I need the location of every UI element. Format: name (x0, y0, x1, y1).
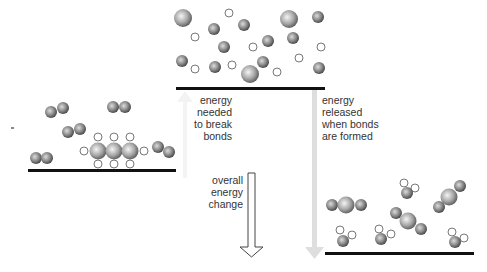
form-bonds-line-2: released (322, 106, 402, 118)
break-bonds-line-1: energy (172, 94, 232, 106)
break-bonds-label: energy needed to break bonds (172, 94, 232, 142)
break-bonds-line-3: to break (172, 118, 232, 130)
overall-line-1: overall (193, 174, 243, 186)
carbon-dioxide-molecule (390, 207, 427, 235)
break-bonds-line-4: bonds (172, 130, 232, 142)
overall-energy-label: overall energy change (193, 174, 243, 210)
oxygen-molecule (107, 101, 131, 113)
oxygen-molecule (30, 152, 53, 164)
water-molecule (336, 226, 356, 247)
carbon-dioxide-molecule (433, 180, 466, 213)
overall-line-2: energy (193, 186, 243, 198)
oxygen-molecule (62, 123, 86, 138)
products-level-line (325, 252, 474, 255)
water-molecule (400, 179, 419, 199)
water-molecule (375, 225, 395, 245)
oxygen-molecule (152, 141, 175, 158)
form-bonds-line-1: energy (322, 94, 402, 106)
stray-mark (11, 127, 14, 129)
atoms-level-line (176, 87, 325, 90)
oxygen-molecule (45, 102, 69, 118)
water-molecule (448, 228, 468, 248)
overall-line-3: change (193, 198, 243, 210)
form-bonds-label: energy released when bonds are formed (322, 94, 402, 142)
break-bonds-line-2: needed (172, 106, 232, 118)
overall-energy-arrow (240, 173, 263, 257)
reactants-level-line (28, 169, 176, 172)
energy-level-diagram (0, 0, 487, 272)
form-bonds-line-3: when bonds (322, 118, 402, 130)
separated-atoms (174, 9, 325, 83)
carbon-dioxide-molecule (326, 197, 367, 214)
propane-molecule (80, 133, 148, 168)
form-bonds-line-4: are formed (322, 130, 402, 142)
